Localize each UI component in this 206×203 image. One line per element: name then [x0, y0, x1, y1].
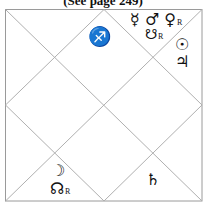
ketu-retrograde-label: R — [158, 32, 163, 41]
rahu-retrograde-label: R — [65, 187, 70, 196]
planet-group-top-right-line2: ☋R — [145, 27, 163, 41]
rahu-icon: ☊ — [50, 179, 64, 198]
mercury-icon: ☿ — [130, 10, 140, 29]
planet-group-bottom-left-line2: ☊R — [50, 181, 70, 197]
jupiter-icon: ♃ — [175, 54, 189, 70]
ketu-icon: ☋ — [145, 26, 157, 42]
moon-icon: ☽ — [51, 163, 65, 179]
venus-retrograde-label: R — [177, 18, 182, 27]
sun-icon: ☉ — [175, 37, 189, 53]
sagittarius-icon: ♐ — [88, 27, 112, 46]
saturn-icon: ♄ — [146, 172, 160, 188]
venus-icon: ♀ — [164, 10, 176, 29]
